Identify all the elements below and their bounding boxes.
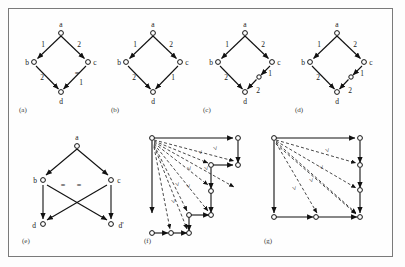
node-label-a: a [59,20,63,29]
dashed-marker-4: > [290,185,300,191]
node-g-4 [358,188,363,193]
node-d [151,90,156,95]
panel-a-graph: = a b c d 1 2 2 1 [15,13,107,118]
panel-label-a: (a) [19,106,27,114]
node-label-d: d [59,97,63,106]
panel-g: > > > > (g) [261,127,383,252]
panel-label-d: (d) [295,106,303,114]
panel-label-g: (g) [264,237,272,245]
panel-label-f: (f) [144,237,151,245]
node-label-d: d [335,97,339,106]
edge-label-c-d: 1 [171,73,175,82]
panel-label-e: (e) [22,237,30,245]
node-label-c: c [185,58,189,67]
node-f-4 [209,163,214,168]
dashed-edge-8 [154,147,170,229]
tick-mark-c-d: = [75,69,80,78]
panel-f: > > > > > > > (f) [141,127,261,252]
figure-frame: = a b c d 1 2 2 1 (a) [8,8,393,257]
node-label-b: b [33,176,37,185]
node-f-2 [236,136,241,141]
edge-a-c [337,36,361,59]
edge-label-a-b: 1 [133,40,137,49]
edge-label-m-d: 2 [256,86,260,95]
edge-label-a-c: 2 [169,40,173,49]
node-b [41,178,46,183]
node-label-d: d [32,221,36,230]
edge-label-a-c: 2 [77,40,81,49]
dashed-marker-3: > [307,177,317,183]
edge-label-m-d: 2 [348,86,352,95]
node-mid-c-d [257,75,261,79]
node-a [335,31,340,36]
node-g-2 [358,136,363,141]
dashed-marker-4: > [185,165,195,171]
edge-label-a-b: 1 [317,40,321,49]
node-b [124,60,129,65]
edge-label-b-d: 2 [316,73,320,82]
panel-a: = a b c d 1 2 2 1 (a) [15,13,107,118]
node-label-a: a [75,133,79,142]
tick-mark-b-dprime: = [61,181,66,190]
panel-f-graph: > > > > > > > [141,127,261,252]
node-label-b: b [117,58,121,67]
edge-label-b-d: 2 [224,73,228,82]
edge-label-c-m: 1 [360,69,364,78]
panel-label-c: (c) [203,106,211,114]
dashed-marker-1: > [211,145,221,151]
panel-b: a b c d 1 2 2 1 (b) [107,13,199,118]
node-label-a: a [243,20,247,29]
edge-label-a-b: 1 [225,40,229,49]
node-c [109,178,114,183]
node-g-6 [314,215,319,220]
node-g-3 [358,163,363,168]
node-f-1 [150,136,155,141]
node-c [362,60,367,65]
tick-mark-c-d: = [77,181,82,190]
edge-label-b-d: 2 [132,73,136,82]
edge-label-a-c: 2 [261,40,265,49]
node-label-a: a [151,20,155,29]
edge-label-b-d: 2 [40,73,44,82]
panel-d-graph: a b c d 1 2 2 1 2 [291,13,383,118]
dashed-marker-1: > [323,147,333,153]
dashed-marker-2: > [317,164,327,170]
node-label-dprime: d' [118,221,124,230]
edge-a-c [77,149,108,175]
node-f-3 [236,163,241,168]
node-label-c: c [277,58,281,67]
edge-label-a-b: 1 [41,40,45,49]
node-f-8 [187,231,192,236]
node-label-b: b [301,58,305,67]
dashed-edge-1 [276,140,356,163]
node-label-c: c [93,58,97,67]
node-d [59,90,64,95]
edge-a-c [153,36,177,59]
edge-label-a-c: 2 [353,40,357,49]
node-label-c: c [369,58,373,67]
node-label-d: d [151,97,155,106]
dashed-marker-6: > [173,181,183,187]
node-f-5 [209,189,214,194]
panel-d: a b c d 1 2 2 1 2 (d) [291,13,383,118]
node-g-1 [272,136,277,141]
dashed-edge-7 [154,146,187,229]
node-b [216,60,221,65]
edge-label-c-m: 1 [268,69,272,78]
node-dprime [109,222,114,227]
node-d [243,90,248,95]
node-label-d: d [243,97,247,106]
node-label-c: c [117,176,121,185]
node-mid-c-d [349,75,353,79]
node-a [151,31,156,36]
node-f-10 [150,231,155,236]
node-d [41,222,46,227]
node-c [178,60,183,65]
edge-a-b [46,149,77,175]
panel-b-graph: a b c d 1 2 2 1 [107,13,199,118]
edge-a-c [61,36,85,59]
node-f-7 [187,213,192,218]
node-a [75,144,80,149]
node-a [59,31,64,36]
dashed-marker-7: > [169,198,179,204]
